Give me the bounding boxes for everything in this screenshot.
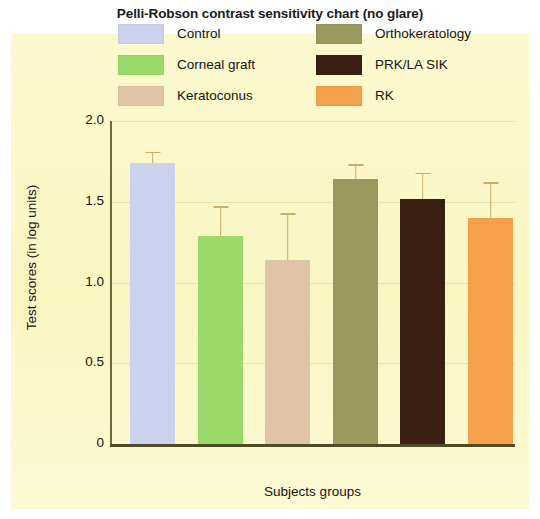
legend-label-orthokeratology: Orthokeratology	[375, 26, 471, 41]
bar-corneal-graft[interactable]	[198, 121, 243, 444]
bars-layer	[110, 121, 515, 444]
figure: Pelli-Robson contrast sensitivity chart …	[0, 0, 540, 519]
bar-orthokeratology[interactable]	[333, 121, 378, 444]
bar-body	[400, 199, 445, 444]
y-tick-label: 1.5	[64, 193, 104, 208]
bar-body	[198, 236, 243, 444]
legend-label-corneal-graft: Corneal graft	[177, 57, 255, 72]
error-bar-line	[287, 215, 289, 260]
error-bar-cap	[280, 213, 295, 215]
error-bar-cap	[145, 152, 160, 154]
error-bar-line	[422, 174, 424, 198]
legend-label-prk-lasik: PRK/LA SIK	[375, 57, 448, 72]
bar-body	[130, 163, 175, 444]
legend-swatch-corneal-graft	[118, 55, 164, 75]
legend-column-right: Orthokeratology PRK/LA SIK RK	[316, 18, 471, 111]
legend-swatch-rk	[316, 86, 362, 106]
error-bar-line	[355, 166, 357, 179]
legend-swatch-orthokeratology	[316, 24, 362, 44]
error-bar-cap	[415, 173, 430, 175]
legend-item-orthokeratology: Orthokeratology	[316, 18, 471, 49]
legend-item-rk: RK	[316, 80, 471, 111]
bar-prk-la-sik[interactable]	[400, 121, 445, 444]
y-tick-label: 2.0	[64, 112, 104, 127]
chart-legend: Control Corneal graft Keratoconus Orthok…	[118, 18, 448, 114]
error-bar-line	[220, 208, 222, 235]
x-axis-title: Subjects groups	[110, 484, 515, 499]
bar-rk[interactable]	[468, 121, 513, 444]
y-tick-label: 1.0	[64, 274, 104, 289]
bar-keratoconus[interactable]	[265, 121, 310, 444]
y-tick-label: 0.5	[64, 354, 104, 369]
error-bar-cap	[348, 164, 363, 166]
bar-control[interactable]	[130, 121, 175, 444]
legend-swatch-prk-lasik	[316, 55, 362, 75]
y-axis-ticks: 00.51.01.52.0	[58, 0, 104, 519]
bar-body	[333, 179, 378, 444]
legend-label-control: Control	[177, 26, 221, 41]
error-bar-line	[490, 184, 492, 218]
bar-body	[265, 260, 310, 444]
legend-item-prk-lasik: PRK/LA SIK	[316, 49, 471, 80]
error-bar-cap	[483, 182, 498, 184]
legend-label-keratoconus: Keratoconus	[177, 88, 253, 103]
legend-column-left: Control Corneal graft Keratoconus	[118, 18, 255, 111]
bar-body	[468, 218, 513, 444]
legend-label-rk: RK	[375, 88, 394, 103]
legend-item-corneal-graft: Corneal graft	[118, 49, 255, 80]
y-tick-label: 0	[64, 435, 104, 450]
legend-swatch-control	[118, 24, 164, 44]
legend-item-control: Control	[118, 18, 255, 49]
legend-item-keratoconus: Keratoconus	[118, 80, 255, 111]
error-bar-line	[152, 153, 154, 163]
error-bar-cap	[213, 206, 228, 208]
legend-swatch-keratoconus	[118, 86, 164, 106]
x-axis-line	[110, 444, 515, 447]
y-axis-title: Test scores (in log units)	[24, 148, 39, 368]
